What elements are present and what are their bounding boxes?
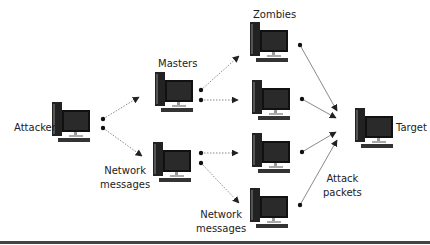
target-computer-icon [355,108,393,148]
zombie-4-computer-icon [250,188,288,228]
attack-packets-label: Attack packets [323,172,362,200]
bottom-divider [0,241,430,244]
zombie-3-computer-icon [252,133,290,173]
edges-attacker-masters [103,97,142,156]
zombies-label: Zombies [253,8,296,22]
master-1-computer-icon [155,72,193,112]
attacker-label: Attacker [14,121,56,135]
attacker-computer-icon [52,102,90,142]
master-2-computer-icon [153,142,191,182]
network-messages-label-1: Network messages [100,164,150,192]
zombie-1-computer-icon [250,22,288,62]
edges-masters-zombies [201,56,239,203]
masters-label: Masters [158,57,197,71]
network-messages-label-2: Network messages [196,208,246,236]
zombie-2-computer-icon [252,80,290,120]
target-label: Target [396,121,427,135]
